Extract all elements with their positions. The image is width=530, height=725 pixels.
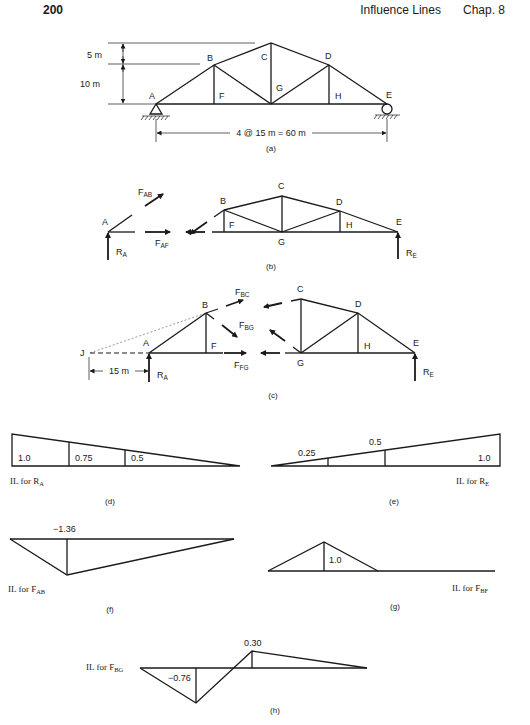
il-fbf-line [268,542,378,571]
node-G-c: G [297,358,304,368]
node-G: G [276,83,283,93]
label-FAB: FAB [138,187,152,198]
caption-h: (h) [270,706,280,715]
il-fbg-value-pos: 0.30 [244,638,262,648]
ground-hatch-right [374,115,400,119]
top-chord-b [224,196,398,232]
node-B: B [207,53,213,63]
caption-b: (b) [266,262,276,271]
node-H-b: H [346,220,353,230]
node-B-c: B [202,300,208,310]
label-FFG: FFG [234,360,249,371]
member-GD-b [282,211,340,232]
member-BG-stub [206,313,214,319]
label-RE-b: RE [406,248,418,259]
node-G-b: G [278,237,285,247]
il-fbf-title: IL for FBF [452,583,489,594]
node-A-b: A [102,217,108,227]
dim-15m-label: 15 m [109,366,129,376]
il-ra-value-1: 1.0 [18,453,31,463]
node-C: C [261,52,268,62]
pin-support-icon [150,104,162,114]
il-fab-title: IL for FAB [8,584,46,595]
il-ra-title: IL for RA [10,476,44,487]
force-FBC-arrow [226,300,243,306]
figure-b-free-body: A FAB FAF RA B C D E F G H RE (b) [102,181,418,271]
node-J: J [80,348,85,358]
figure-h-il-fbg: −0.76 0.30 IL for FBG (h) [86,638,367,715]
node-C-b: C [278,181,285,191]
node-A-c: A [143,338,149,348]
dim-10m-label: 10 m [80,79,100,89]
il-ra-value-3: 0.5 [131,453,144,463]
force-FCB-arrow [264,303,282,307]
il-re-value-3: 1.0 [478,453,491,463]
member-BA-stub [214,210,224,217]
label-FBC: FBC [235,287,250,298]
node-D: D [325,51,332,61]
il-fbg-title: IL for FBG [86,662,124,673]
il-fab-value: −1.36 [53,524,76,534]
node-H: H [335,91,342,101]
il-ra-diagram [12,434,240,466]
il-re-value-2: 0.5 [369,437,382,447]
caption-g: (g) [390,602,400,611]
span-label: 4 @ 15 m = 60 m [236,128,305,138]
node-D-c: D [355,299,362,309]
node-D-b: D [336,197,343,207]
figure-c-section: J 15 m A B F FBC FBG FFG RA C [80,284,435,400]
figure-a-truss: 5 m 10 m A B C D E F G H 4 @ 15 m = 60 m… [80,43,400,153]
force-FBG-arrow [222,325,237,337]
node-H-c: H [364,341,371,351]
member-GB-stub [293,347,301,353]
node-F-c: F [211,341,217,351]
ground-hatch-left [141,116,170,120]
member-GD-c [301,313,358,353]
caption-f: (f) [106,605,114,614]
node-C-c: C [297,284,304,294]
il-ra-value-2: 0.75 [75,453,93,463]
node-F: F [219,91,225,101]
caption-e: (e) [389,497,399,506]
il-fbg-value-neg: −0.76 [168,673,191,683]
label-FBG: FBG [239,320,254,331]
figure-canvas: 5 m 10 m A B C D E F G H 4 @ 15 m = 60 m… [0,0,530,725]
label-RE-c: RE [423,367,435,378]
node-E-c: E [413,338,419,348]
il-fab-line [10,539,234,575]
node-E: E [386,90,392,100]
figure-f-il-fab: −1.36 IL for FAB (f) [8,524,234,614]
il-re-title: IL for RE [456,476,489,487]
node-B-b: B [220,196,226,206]
caption-d: (d) [105,497,115,506]
node-F-b: F [229,220,235,230]
figure-d-il-ra: 1.0 0.75 0.5 IL for RA (d) [10,434,240,506]
roller-support-icon [382,104,392,114]
label-FAF: FAF [155,238,169,249]
figure-e-il-re: 0.25 0.5 1.0 IL for RE (e) [271,434,500,506]
il-fbf-value: 1.0 [329,555,342,565]
force-FGB-arrow [270,330,285,341]
member-AB-c [149,313,206,353]
member-CB-stub [291,299,301,301]
label-RA-c: RA [157,370,169,381]
member-AB-stub [108,215,132,232]
dim-5m-label: 5 m [87,50,102,60]
il-re-value-1: 0.25 [298,448,316,458]
label-RA-b: RA [116,247,128,258]
caption-a: (a) [266,144,276,153]
node-A: A [149,91,155,101]
node-E-b: E [396,217,402,227]
figure-g-il-fbf: 1.0 IL for FBF (g) [268,542,495,611]
caption-c: (c) [268,391,278,400]
